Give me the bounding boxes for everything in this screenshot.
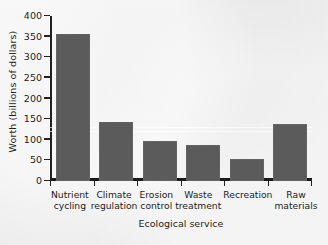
x-axis-category-labels: Nutrient cyclingClimate regulationErosio…: [50, 189, 312, 211]
x-axis-title: Ecological service: [50, 218, 312, 229]
y-axis-tick-label: 300: [24, 53, 42, 63]
y-axis-tick: [44, 35, 50, 36]
x-axis-label-erosion-control: Erosion control: [138, 189, 174, 211]
x-axis-tick: [311, 179, 312, 186]
y-axis-tick-label: 100: [24, 135, 42, 145]
y-axis-tick: [44, 138, 50, 139]
x-axis-tick: [268, 179, 269, 186]
bar-slot: [138, 16, 182, 181]
x-axis-label-nutrient-cycling: Nutrient cycling: [50, 189, 90, 211]
y-axis-tick-label: 150: [24, 114, 42, 124]
y-axis-tick: [44, 56, 50, 57]
y-axis-tick-label: 350: [24, 32, 42, 42]
y-axis-tick-label: 200: [24, 94, 42, 104]
x-axis-tick: [50, 179, 51, 186]
bar-raw-materials[interactable]: [273, 124, 307, 181]
bar-waste-treatment[interactable]: [186, 145, 220, 181]
x-axis-tick: [137, 179, 138, 186]
x-axis-tick: [181, 179, 182, 186]
bar-nutrient-cycling[interactable]: [56, 34, 90, 181]
bar-erosion-control[interactable]: [143, 141, 177, 181]
x-axis-tick: [94, 179, 95, 186]
y-axis-tick: [44, 15, 50, 16]
x-axis-tick: [224, 179, 225, 186]
bar-slot: [51, 16, 95, 181]
bar-group: [51, 16, 312, 181]
bar-slot: [95, 16, 139, 181]
y-axis-tick: [44, 97, 50, 98]
x-axis-label-climate-regulation: Climate regulation: [90, 189, 139, 211]
bar-slot: [225, 16, 269, 181]
x-axis-label-waste-treatment: Waste treatment: [174, 189, 222, 211]
y-axis-tick: [44, 76, 50, 77]
bar-climate-regulation[interactable]: [99, 122, 133, 181]
y-axis-tick-label: 0: [36, 176, 42, 186]
x-axis-label-raw-materials: Raw materials: [273, 189, 318, 211]
y-axis-tick: [44, 118, 50, 119]
x-axis-label-recreation: Recreation: [222, 189, 273, 211]
y-axis-tick-label: 250: [24, 73, 42, 83]
y-axis-title: Worth (billions of dollars): [6, 0, 20, 182]
bar-recreation[interactable]: [230, 159, 264, 181]
bar-slot: [182, 16, 226, 181]
bar-chart-figure: Worth (billions of dollars) 050100150200…: [0, 0, 328, 245]
y-axis-tick: [44, 159, 50, 160]
y-axis-title-text: Worth (billions of dollars): [8, 30, 19, 152]
y-axis-tick-label: 50: [30, 156, 42, 166]
y-axis-tick-label: 400: [24, 11, 42, 21]
plot-area: 050100150200250300350400: [50, 10, 312, 185]
bar-slot: [269, 16, 313, 181]
